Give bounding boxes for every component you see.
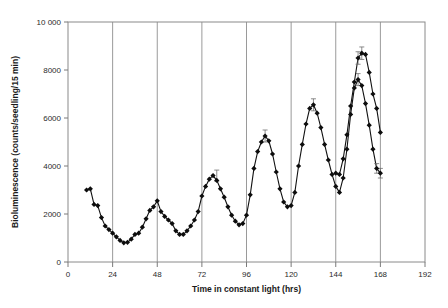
data-point-marker (192, 217, 197, 222)
data-point-marker (270, 151, 275, 156)
y-ticklabel: 6000 (43, 114, 61, 123)
data-point-marker (363, 101, 368, 106)
y-ticklabel: 10 000 (37, 18, 62, 27)
data-point-marker (292, 190, 297, 195)
data-point-marker (99, 215, 104, 220)
data-point-marker (196, 209, 201, 214)
x-ticklabel: 144 (329, 270, 343, 279)
data-point-marker (303, 121, 308, 126)
series-line-1 (336, 53, 381, 174)
x-ticklabel: 168 (374, 270, 388, 279)
x-ticklabel: 120 (284, 270, 298, 279)
data-point-marker (274, 169, 279, 174)
data-point-marker (199, 193, 204, 198)
data-point-marker (255, 149, 260, 154)
x-ticklabel: 72 (197, 270, 206, 279)
axis-titles-group: Time in constant light (hrs)Bioluminesce… (10, 56, 301, 294)
data-point-marker (300, 142, 305, 147)
data-point-marker (218, 186, 223, 191)
y-axis-title: Bioluminescence (counts/seedling/15 min) (10, 56, 20, 228)
data-point-marker (277, 186, 282, 191)
data-point-marker (359, 83, 364, 88)
y-ticklabel: 2000 (43, 210, 61, 219)
y-ticklabel: 8000 (43, 66, 61, 75)
x-axis-title: Time in constant light (hrs) (192, 284, 301, 294)
data-point-marker (296, 163, 301, 168)
data-point-marker (251, 166, 256, 171)
data-point-marker (352, 85, 357, 90)
x-ticklabel: 96 (242, 270, 251, 279)
data-point-marker (248, 192, 253, 197)
data-point-marker (259, 139, 264, 144)
data-point-marker (155, 198, 160, 203)
x-ticklabel: 0 (66, 270, 71, 279)
data-point-marker (374, 106, 379, 111)
caption-strip (0, 298, 448, 308)
line-chart-svg: 0200040006000800010 00002448729612014416… (0, 0, 448, 308)
data-point-marker (326, 157, 331, 162)
data-point-marker (333, 184, 338, 189)
data-point-marker (370, 91, 375, 96)
x-ticklabel: 192 (418, 270, 432, 279)
data-point-marker (367, 70, 372, 75)
series-line-0 (87, 80, 381, 243)
y-ticklabel: 4000 (43, 162, 61, 171)
y-ticklabel: 0 (57, 258, 62, 267)
data-point-marker (244, 213, 249, 218)
data-point-marker (225, 204, 230, 209)
data-point-marker (318, 125, 323, 130)
x-ticklabel: 24 (108, 270, 117, 279)
data-point-marker (370, 147, 375, 152)
x-ticklabel: 48 (153, 270, 162, 279)
data-series-group (84, 47, 383, 245)
data-point-marker (140, 225, 145, 230)
data-point-marker (322, 142, 327, 147)
data-point-marker (203, 184, 208, 189)
data-point-marker (337, 190, 342, 195)
data-point-marker (367, 123, 372, 128)
tick-marks-group (64, 22, 425, 267)
data-point-marker (143, 216, 148, 221)
data-point-marker (315, 111, 320, 116)
data-point-marker (378, 130, 383, 135)
gridlines-group (113, 22, 381, 262)
data-point-marker (341, 175, 346, 180)
data-point-marker (222, 195, 227, 200)
data-point-marker (229, 213, 234, 218)
bioluminescence-figure: 0200040006000800010 00002448729612014416… (0, 0, 448, 308)
